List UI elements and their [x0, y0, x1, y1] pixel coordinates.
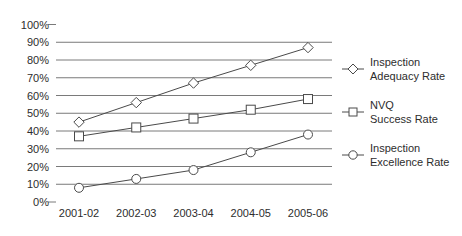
y-axis-label: 60% — [27, 90, 49, 102]
y-axis-label: 50% — [27, 107, 49, 119]
y-axis-label: 10% — [27, 178, 49, 190]
data-point-circle — [189, 166, 198, 175]
x-axis-label: 2001-02 — [59, 207, 99, 219]
line-chart-plot: 100%90%80%70%60%50%40%30%20%10%0%2001-02… — [0, 0, 462, 236]
data-point-circle — [75, 183, 84, 192]
data-point-diamond — [74, 117, 84, 127]
series-line-circle — [79, 135, 308, 188]
data-point-circle — [246, 148, 255, 157]
x-axis-label: 2005-06 — [288, 207, 328, 219]
x-axis-label: 2004-05 — [231, 207, 271, 219]
y-axis-label: 30% — [27, 143, 49, 155]
y-axis-label: 100% — [21, 19, 49, 31]
y-axis-label: 20% — [27, 161, 49, 173]
y-axis-label: 0% — [33, 196, 49, 208]
y-axis-label: 90% — [27, 36, 49, 48]
chart-figure: 100%90%80%70%60%50%40%30%20%10%0%2001-02… — [0, 0, 462, 236]
data-point-diamond — [246, 60, 256, 70]
x-axis-label: 2003-04 — [173, 207, 213, 219]
data-point-square — [189, 114, 198, 123]
data-point-square — [132, 123, 141, 132]
data-point-circle — [304, 130, 313, 139]
data-point-square — [75, 132, 84, 141]
y-axis-label: 80% — [27, 54, 49, 66]
x-axis-label: 2002-03 — [116, 207, 156, 219]
data-point-circle — [132, 174, 141, 183]
y-axis-label: 70% — [27, 72, 49, 84]
y-axis-label: 40% — [27, 125, 49, 137]
data-point-diamond — [303, 42, 313, 52]
data-point-diamond — [188, 78, 198, 88]
data-point-square — [246, 105, 255, 114]
data-point-square — [304, 95, 313, 104]
data-point-diamond — [131, 97, 141, 107]
